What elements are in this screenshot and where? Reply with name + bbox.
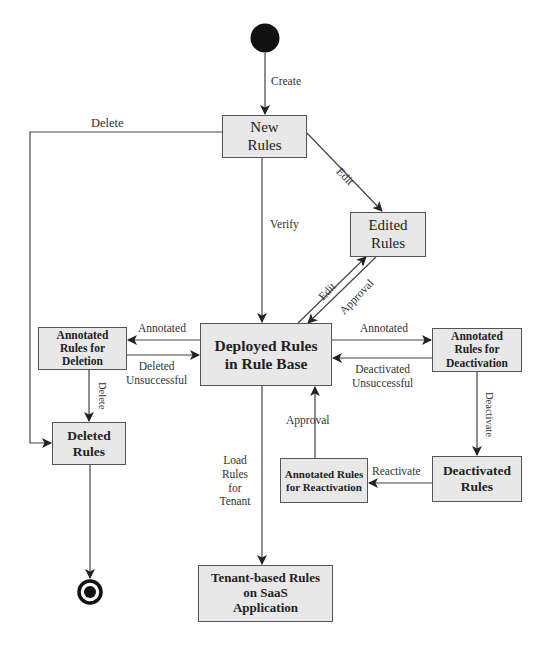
state-label: Rules for [57, 342, 109, 355]
end-icon [77, 579, 103, 605]
state-deactivated-rules: DeactivatedRules [432, 456, 522, 502]
state-label: in Rule Base [215, 355, 318, 373]
label-delete-top: Delete [91, 116, 124, 131]
state-label: Annotated [446, 330, 508, 343]
state-label: Rules for [446, 343, 508, 356]
label-line: Unsuccessful [126, 374, 187, 388]
state-label: Deleted [67, 428, 110, 444]
label-annotated-right: Annotated [360, 322, 408, 336]
state-label: Tenant-based Rules [211, 571, 320, 586]
state-deleted-rules: DeletedRules [52, 422, 126, 465]
state-label: Rules [368, 235, 407, 252]
label-delete-down: Delete [95, 382, 108, 409]
state-label: Application [211, 601, 320, 616]
label-approval-reactivation: Approval [286, 414, 329, 428]
label-line: Deactivated [352, 363, 413, 377]
state-label: Annotated [57, 329, 109, 342]
label-reactivate: Reactivate [372, 465, 421, 479]
state-label: on SaaS [211, 586, 320, 601]
state-label: Edited [368, 217, 407, 234]
state-label: New [247, 119, 281, 136]
label-deactivate: Deactivate [482, 392, 495, 437]
label-load-rules: Load Rules for Tenant [218, 454, 252, 509]
label-line: Load [218, 454, 252, 468]
state-annotated-deactivation: AnnotatedRules forDeactivation [432, 328, 522, 372]
start-icon [250, 23, 280, 53]
state-deployed-rules: Deployed Rulesin Rule Base [200, 323, 332, 386]
state-tenant-rules: Tenant-based Ruleson SaaSApplication [198, 565, 333, 622]
label-create: Create [271, 75, 301, 89]
state-edited-rules: EditedRules [350, 212, 426, 257]
state-label: Rules [67, 444, 110, 460]
state-label: Deactivated [443, 463, 511, 479]
label-line: for [218, 482, 252, 496]
label-annotated-left: Annotated [138, 322, 186, 336]
state-label: Rules [247, 137, 281, 154]
label-line: Rules [218, 468, 252, 482]
label-deactivated-unsuccessful: Deactivated Unsuccessful [352, 363, 413, 391]
state-annotated-deletion: AnnotatedRules forDeletion [38, 327, 127, 370]
state-label: Deactivation [446, 357, 508, 370]
label-deleted-unsuccessful: Deleted Unsuccessful [126, 360, 187, 388]
state-label: Deployed Rules [215, 337, 318, 355]
state-label: Rules [443, 479, 511, 495]
state-label: Deletion [57, 355, 109, 368]
state-new-rules: NewRules [222, 115, 307, 158]
label-line: Unsuccessful [352, 377, 413, 391]
state-label: Annotated Rules [285, 468, 364, 481]
state-label: for Reactivation [285, 481, 364, 494]
state-annotated-reactivation: Annotated Rulesfor Reactivation [280, 458, 368, 503]
label-line: Tenant [218, 495, 252, 509]
label-line: Deleted [126, 360, 187, 374]
label-verify: Verify [270, 218, 299, 232]
